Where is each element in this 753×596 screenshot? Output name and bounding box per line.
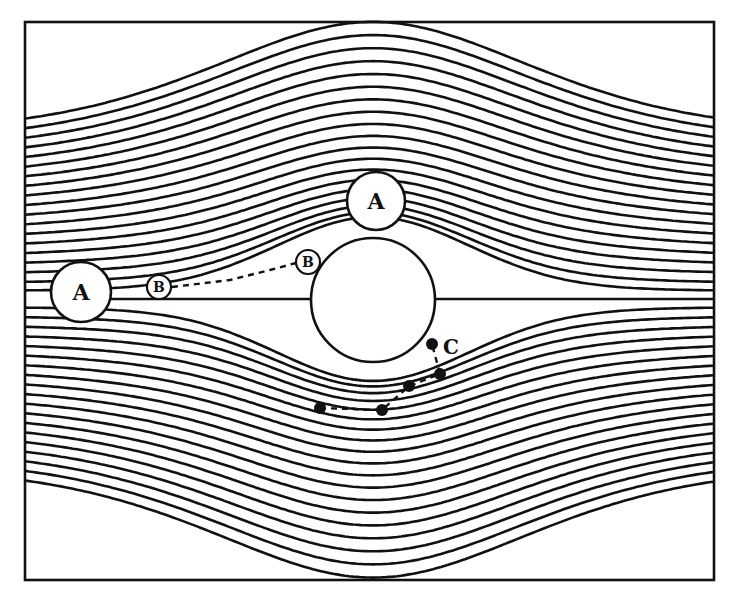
particle-a-top-label: A — [366, 188, 385, 214]
particle-position-dot — [426, 338, 438, 350]
collector-cylinder — [311, 238, 435, 362]
particle-a-top: A — [347, 172, 405, 230]
particle-b-upper: B — [296, 250, 320, 274]
particle-b-left: B — [147, 275, 171, 299]
particle-position-dot — [403, 380, 415, 392]
particle-position-dot — [314, 402, 326, 414]
particle-position-dot — [434, 368, 446, 380]
particle-a-left: A — [51, 262, 111, 322]
particle-c-label: C — [443, 335, 459, 359]
particle-position-dot — [376, 404, 388, 416]
particle-b-left-label: B — [153, 279, 165, 295]
particle-b-upper-label: B — [302, 254, 314, 270]
particle-a-left-label: A — [71, 279, 90, 305]
streamline-diagram: A A B B C — [0, 0, 753, 596]
